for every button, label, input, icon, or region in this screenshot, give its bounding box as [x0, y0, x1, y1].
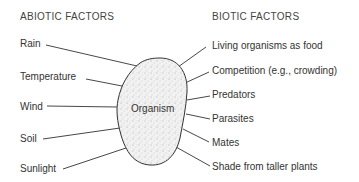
biotic-label-food: Living organisms as food [212, 40, 323, 52]
abiotic-header: ABIOTIC FACTORS [20, 11, 114, 23]
abiotic-label-temperature: Temperature [20, 71, 76, 83]
biotic-label-parasites: Parasites [212, 113, 254, 125]
abiotic-label-wind: Wind [20, 101, 43, 113]
biotic-label-mates: Mates [212, 137, 239, 149]
biotic-label-shade: Shade from taller plants [212, 161, 318, 173]
organism-label: Organism [131, 103, 174, 114]
diagram-graphics [0, 0, 359, 182]
abiotic-label-sunlight: Sunlight [20, 163, 56, 175]
abiotic-label-soil: Soil [20, 133, 37, 145]
biotic-label-competition: Competition (e.g., crowding) [212, 65, 337, 77]
biotic-header: BIOTIC FACTORS [212, 11, 299, 23]
factors-diagram: ABIOTIC FACTORS BIOTIC FACTORS Rain Temp… [0, 0, 359, 182]
abiotic-label-rain: Rain [20, 38, 41, 50]
biotic-label-predators: Predators [212, 89, 255, 101]
